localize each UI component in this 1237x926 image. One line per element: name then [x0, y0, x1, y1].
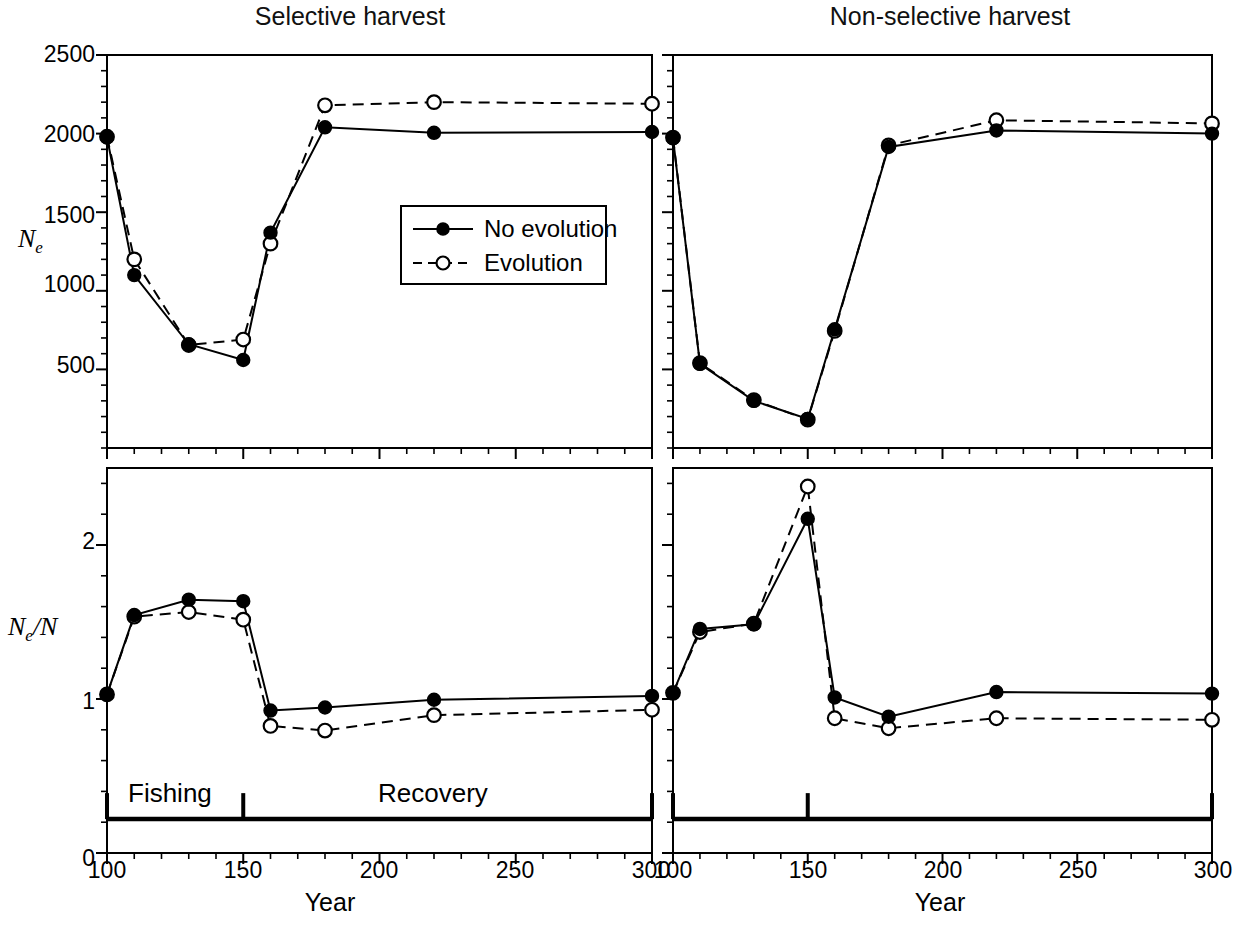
- data-point-bottom-left-1-130: [182, 605, 196, 619]
- data-point-bottom-left-0-110: [128, 609, 141, 622]
- data-point-bottom-left-0-180: [319, 701, 332, 714]
- legend-label-no-evolution: No evolution: [484, 215, 617, 243]
- legend-entry-no-evolution: No evolution: [412, 214, 617, 244]
- plot-frame-bottom-right: [673, 468, 1212, 853]
- panel-top-right: [662, 55, 1219, 459]
- data-point-top-left-1-150: [236, 333, 250, 347]
- ytick-label-bl-1: 1: [0, 688, 95, 715]
- series-line-bottom-right-1: [673, 486, 1212, 728]
- series-line-bottom-left-1: [107, 612, 652, 731]
- data-point-top-right-0-100: [667, 132, 680, 145]
- data-point-top-right-0-300: [1206, 127, 1219, 140]
- data-point-bottom-right-1-300: [1205, 713, 1219, 727]
- data-point-top-right-0-130: [747, 394, 760, 407]
- ytick-label-tl-1500: 1500: [0, 202, 95, 229]
- data-point-top-left-0-100: [101, 131, 114, 144]
- data-point-bottom-left-0-100: [101, 688, 114, 701]
- xtick-label-bl-250: 250: [483, 857, 547, 884]
- xtick-label-bl-200: 200: [347, 857, 411, 884]
- xtick-label-br-150: 150: [776, 857, 840, 884]
- ytick-label-bl-2: 2: [0, 528, 95, 555]
- data-point-bottom-left-1-220: [427, 708, 441, 722]
- fishing-label: Fishing: [128, 778, 212, 809]
- plot-frame-top-right: [673, 55, 1212, 448]
- data-point-bottom-right-1-160: [828, 711, 842, 725]
- data-point-bottom-right-0-130: [747, 618, 760, 631]
- data-point-top-right-0-220: [990, 124, 1003, 137]
- ytick-label-tl-2000: 2000: [0, 121, 95, 148]
- data-point-top-left-0-110: [128, 269, 141, 282]
- data-point-bottom-right-0-160: [828, 691, 841, 704]
- data-point-top-right-0-160: [828, 323, 841, 336]
- data-point-top-left-1-110: [127, 253, 141, 267]
- data-point-bottom-right-0-150: [801, 512, 814, 525]
- xtick-label-br-300: 300: [1181, 857, 1237, 884]
- panel-bottom-right: [662, 468, 1219, 864]
- ytick-label-tl-1000: 1000: [0, 271, 95, 298]
- data-point-top-left-1-300: [645, 97, 659, 111]
- xtick-label-bl-100: 100: [75, 857, 139, 884]
- xtick-label-br-200: 200: [911, 857, 975, 884]
- data-point-bottom-right-0-100: [667, 686, 680, 699]
- data-point-top-left-0-220: [428, 126, 441, 139]
- data-point-bottom-left-1-150: [236, 613, 250, 627]
- legend: No evolution Evolution: [400, 205, 607, 285]
- data-point-top-right-0-150: [801, 413, 814, 426]
- xtick-label-br-100: 100: [641, 857, 705, 884]
- legend-swatch-no-evolution: [412, 219, 474, 239]
- data-point-bottom-right-1-150: [801, 480, 815, 494]
- data-point-top-left-0-150: [237, 354, 250, 367]
- data-point-bottom-left-0-160: [264, 704, 277, 717]
- recovery-label: Recovery: [378, 778, 488, 809]
- data-point-bottom-right-0-220: [990, 686, 1003, 699]
- data-point-top-left-1-180: [318, 99, 332, 113]
- data-point-top-right-0-110: [694, 358, 707, 371]
- data-point-top-left-0-130: [182, 338, 195, 351]
- data-point-bottom-right-0-110: [694, 623, 707, 636]
- data-point-bottom-right-0-300: [1206, 687, 1219, 700]
- legend-entry-evolution: Evolution: [412, 248, 583, 278]
- data-point-bottom-left-0-130: [182, 593, 195, 606]
- ytick-label-tl-500: 500: [0, 352, 95, 379]
- data-point-bottom-right-1-220: [990, 711, 1004, 725]
- data-point-top-left-0-180: [319, 121, 332, 134]
- data-point-bottom-left-1-160: [264, 719, 278, 733]
- series-line-top-right-1: [673, 120, 1212, 419]
- xtick-label-bl-150: 150: [211, 857, 275, 884]
- data-point-bottom-left-1-180: [318, 724, 332, 738]
- data-point-bottom-left-0-220: [428, 693, 441, 706]
- data-point-top-left-0-160: [264, 226, 277, 239]
- data-point-bottom-right-0-180: [882, 710, 895, 723]
- series-line-top-right-0: [673, 130, 1212, 418]
- data-point-bottom-left-0-150: [237, 595, 250, 608]
- data-point-top-left-0-300: [646, 126, 659, 139]
- data-point-bottom-left-1-300: [645, 703, 659, 717]
- data-point-bottom-left-0-300: [646, 690, 659, 703]
- ytick-label-tl-2500: 2500: [0, 41, 95, 68]
- data-point-top-left-1-220: [427, 95, 441, 109]
- xtick-label-br-250: 250: [1046, 857, 1110, 884]
- legend-label-evolution: Evolution: [484, 249, 583, 277]
- legend-swatch-evolution: [412, 253, 474, 273]
- data-point-top-right-0-180: [882, 141, 895, 154]
